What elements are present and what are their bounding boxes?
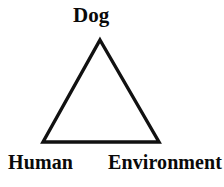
label-dog: Dog: [73, 5, 109, 26]
triangle-diagram-figure: Dog Human Environment: [0, 0, 224, 187]
label-environment: Environment: [108, 152, 222, 172]
triangle-outline: [43, 40, 159, 142]
label-human: Human: [8, 152, 73, 172]
